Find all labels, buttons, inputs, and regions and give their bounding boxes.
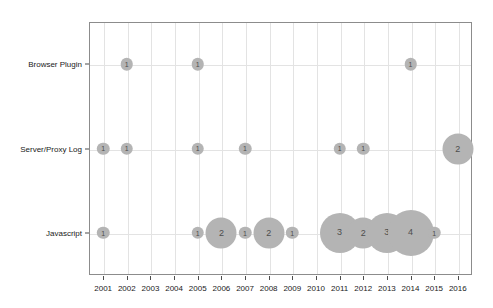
bubble-value-label: 1 (196, 145, 200, 152)
x-axis-label-2016: 2016 (449, 284, 467, 293)
x-tick-mark (269, 276, 270, 280)
y-axis-label-browser-plugin: Browser Plugin (28, 60, 82, 69)
bubble-value-label: 1 (432, 229, 436, 236)
bubble-value-label: 1 (361, 145, 365, 152)
x-tick-mark (150, 276, 151, 280)
bubble-value-label: 2 (455, 144, 460, 153)
y-axis-label-server-proxy-log: Server/Proxy Log (20, 144, 82, 153)
x-tick-mark (387, 276, 388, 280)
x-axis-label-2005: 2005 (189, 284, 207, 293)
bubble-javascript-2006[interactable]: 2 (206, 217, 237, 248)
bubble-javascript-2007[interactable]: 1 (239, 227, 252, 240)
bubble-server-proxy-log-2007[interactable]: 1 (239, 142, 252, 155)
bubble-server-proxy-log-2002[interactable]: 1 (121, 142, 134, 155)
x-tick-mark (221, 276, 222, 280)
x-axis-label-2004: 2004 (165, 284, 183, 293)
x-axis-label-2008: 2008 (260, 284, 278, 293)
y-axis-label-javascript: Javascript (46, 228, 82, 237)
bubble-javascript-2001[interactable]: 1 (97, 227, 110, 240)
bubble-server-proxy-log-2001[interactable]: 1 (97, 142, 110, 155)
x-axis-label-2010: 2010 (307, 284, 325, 293)
bubble-value-label: 1 (125, 145, 129, 152)
x-tick-mark (292, 276, 293, 280)
x-tick-mark (411, 276, 412, 280)
bubble-browser-plugin-2002[interactable]: 1 (121, 58, 134, 71)
x-axis-label-2015: 2015 (425, 284, 443, 293)
bubble-value-label: 1 (196, 61, 200, 68)
bubble-javascript-2014[interactable]: 4 (388, 210, 434, 256)
bubble-server-proxy-log-2011[interactable]: 1 (333, 142, 346, 155)
x-axis-label-2003: 2003 (142, 284, 160, 293)
x-gridline (317, 23, 318, 274)
x-tick-mark (198, 276, 199, 280)
x-axis-label-2013: 2013 (378, 284, 396, 293)
x-tick-mark (103, 276, 104, 280)
bubble-server-proxy-log-2016[interactable]: 2 (442, 133, 473, 164)
y-tick-mark (85, 64, 89, 65)
bubble-browser-plugin-2014[interactable]: 1 (404, 58, 417, 71)
x-tick-mark (174, 276, 175, 280)
x-axis-label-2014: 2014 (402, 284, 420, 293)
bubble-value-label: 1 (290, 229, 294, 236)
x-axis-label-2011: 2011 (331, 284, 348, 293)
bubble-value-label: 1 (101, 229, 105, 236)
x-tick-mark (458, 276, 459, 280)
y-tick-mark (85, 148, 89, 149)
y-tick-mark (85, 232, 89, 233)
y-gridline (90, 150, 471, 151)
bubble-value-label: 2 (361, 228, 366, 237)
bubble-value-label: 3 (337, 228, 342, 237)
bubble-value-label: 1 (125, 61, 129, 68)
x-axis-label-2002: 2002 (118, 284, 136, 293)
x-tick-mark (316, 276, 317, 280)
bubble-javascript-2009[interactable]: 1 (286, 227, 299, 240)
x-axis-label-2009: 2009 (283, 284, 301, 293)
bubble-value-label: 1 (101, 145, 105, 152)
bubble-value-label: 2 (266, 228, 271, 237)
bubble-chart: 2001200220032004200520062007200820092010… (0, 0, 493, 308)
bubble-javascript-2008[interactable]: 2 (253, 217, 284, 248)
bubble-value-label: 1 (409, 61, 413, 68)
x-gridline (175, 23, 176, 274)
x-tick-mark (127, 276, 128, 280)
bubble-javascript-2015[interactable]: 1 (428, 227, 441, 240)
bubble-server-proxy-log-2012[interactable]: 1 (357, 142, 370, 155)
bubble-value-label: 4 (408, 228, 413, 237)
x-tick-mark (363, 276, 364, 280)
bubble-server-proxy-log-2005[interactable]: 1 (192, 142, 205, 155)
bubble-value-label: 2 (219, 228, 224, 237)
bubble-value-label: 1 (196, 229, 200, 236)
x-axis-label-2007: 2007 (236, 284, 254, 293)
x-axis-label-2001: 2001 (94, 284, 112, 293)
bubble-browser-plugin-2005[interactable]: 1 (192, 58, 205, 71)
x-tick-mark (340, 276, 341, 280)
bubble-value-label: 1 (243, 145, 247, 152)
x-gridline (151, 23, 152, 274)
x-tick-mark (434, 276, 435, 280)
bubble-javascript-2005[interactable]: 1 (192, 227, 205, 240)
bubble-value-label: 1 (338, 145, 342, 152)
x-axis-label-2012: 2012 (354, 284, 372, 293)
bubble-value-label: 1 (243, 229, 247, 236)
x-tick-mark (245, 276, 246, 280)
x-axis-label-2006: 2006 (212, 284, 230, 293)
